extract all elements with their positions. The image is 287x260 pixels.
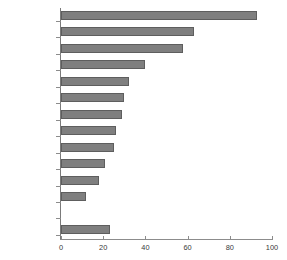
x-axis-tick-label: 40 xyxy=(130,243,160,252)
x-axis-tick-label: 20 xyxy=(88,243,118,252)
bar-chart: LuxembourgIrelandNetherlandsPortugalSpai… xyxy=(0,0,287,260)
y-axis-tick xyxy=(56,186,61,187)
x-axis-line xyxy=(60,239,273,240)
bar xyxy=(61,126,116,135)
x-axis-tick-label: 0 xyxy=(46,243,76,252)
bar xyxy=(61,159,105,168)
y-axis-tick xyxy=(56,120,61,121)
y-axis-tick xyxy=(56,70,61,71)
y-axis-tick xyxy=(56,87,61,88)
y-axis-tick xyxy=(56,136,61,137)
y-axis-tick xyxy=(56,218,61,219)
y-axis-tick xyxy=(56,103,61,104)
x-axis-tick-label: 100 xyxy=(257,243,287,252)
x-axis-tick xyxy=(188,236,189,240)
bar xyxy=(61,11,257,20)
bar xyxy=(61,77,129,86)
x-axis-tick-label: 80 xyxy=(215,243,245,252)
y-axis-tick xyxy=(56,21,61,22)
bar xyxy=(61,60,145,69)
bar xyxy=(61,176,99,185)
x-axis-tick xyxy=(61,236,62,240)
y-axis-line xyxy=(60,8,61,239)
bar xyxy=(61,93,124,102)
x-axis-tick xyxy=(272,236,273,240)
y-axis-tick xyxy=(56,153,61,154)
y-axis-tick xyxy=(56,37,61,38)
x-axis-tick xyxy=(145,236,146,240)
y-axis-tick xyxy=(56,54,61,55)
y-axis-tick xyxy=(56,202,61,203)
x-axis-tick-label: 60 xyxy=(173,243,203,252)
x-axis-tick xyxy=(103,236,104,240)
y-axis-tick xyxy=(56,169,61,170)
plot-area: LuxembourgIrelandNetherlandsPortugalSpai… xyxy=(0,0,287,260)
bar xyxy=(61,110,122,119)
x-axis-tick xyxy=(230,236,231,240)
bar xyxy=(61,44,183,53)
bar xyxy=(61,192,86,201)
bar xyxy=(61,143,114,152)
bar xyxy=(61,225,110,234)
bar xyxy=(61,27,194,36)
